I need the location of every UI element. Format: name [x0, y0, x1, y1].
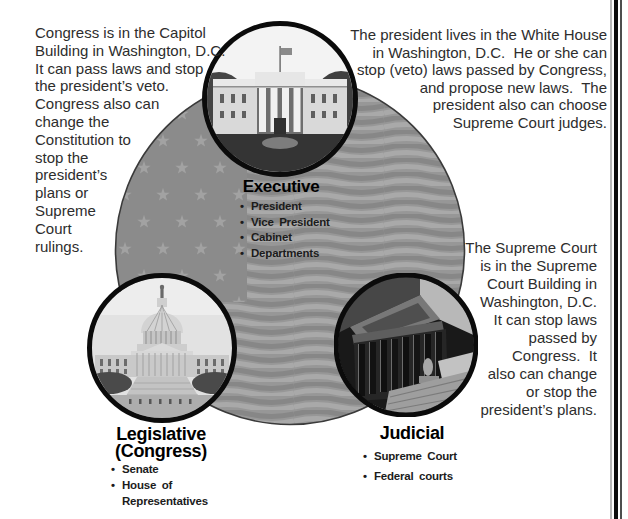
capitol-photo: [87, 273, 237, 423]
legislative-label: Legislative (Congress): [85, 426, 237, 460]
congress-note: Congress is in the Capitol Building in W…: [35, 24, 225, 255]
judicial-label: Judicial: [346, 423, 478, 444]
flag-pole: [279, 46, 280, 76]
judicial-bullet-list: Supreme Court Federal courts: [363, 446, 483, 486]
list-item: Vice President: [240, 215, 355, 231]
worksheet-page: Congress is in the Capitol Building in W…: [0, 0, 628, 519]
entrance-door: [274, 118, 286, 134]
fountain: [262, 137, 298, 149]
legislative-bullet-list: Senate House of Representatives: [111, 461, 241, 509]
page-border-rule-light: [610, 0, 612, 519]
list-item: Departments: [240, 246, 355, 262]
supreme-court-photo: [334, 273, 478, 417]
statue: [423, 358, 433, 376]
list-item: Supreme Court: [363, 446, 483, 466]
executive-label: Executive: [203, 177, 359, 197]
president-note: The president lives in the White House i…: [350, 26, 607, 131]
executive-bullet-list: President Vice President Cabinet Departm…: [240, 199, 355, 261]
supreme-court-note: The Supreme Court is in the Supreme Cour…: [465, 239, 597, 419]
page-border-rule-gray: [620, 0, 622, 519]
list-item: Cabinet: [240, 230, 355, 246]
flag: [281, 48, 292, 55]
list-item: President: [240, 199, 355, 215]
list-item: Federal courts: [363, 466, 483, 486]
page-border-rule-black: [614, 0, 618, 519]
list-item: Senate: [111, 461, 241, 477]
list-item: House of Representatives: [111, 477, 241, 509]
drum-columns: [146, 331, 176, 344]
